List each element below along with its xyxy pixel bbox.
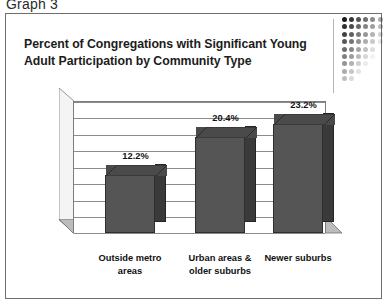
category-label-line: Outside metro — [98, 253, 161, 263]
decoration-dot — [370, 17, 375, 22]
decoration-dot — [363, 39, 368, 44]
category-label-line: Urban areas & — [188, 253, 251, 263]
bar-top-face — [106, 165, 167, 176]
decoration-dot — [363, 17, 368, 22]
decoration-dot — [356, 69, 361, 74]
bar-front-face — [195, 137, 245, 233]
decoration-dot — [349, 24, 354, 29]
chart-frame: Percent of Congregations with Significan… — [5, 13, 382, 299]
decoration-dot — [378, 17, 383, 22]
bar-newer-suburbs — [273, 124, 323, 233]
decoration-dot — [356, 24, 361, 29]
bar-side-face — [323, 113, 334, 222]
decoration-dot — [342, 69, 347, 74]
bar-top-face — [196, 127, 257, 138]
decoration-dot — [342, 61, 347, 66]
decoration-dot — [342, 76, 347, 81]
bar-top-face — [274, 114, 335, 125]
title-divider — [333, 19, 334, 93]
decoration-dot — [370, 54, 375, 59]
category-label-line: areas — [118, 266, 142, 276]
decoration-dot — [363, 54, 368, 59]
decoration-dot — [342, 39, 347, 44]
decoration-dot — [349, 17, 354, 22]
bar-urban-areas-older-suburbs — [195, 137, 245, 233]
chart-title-line-2: Adult Participation by Community Type — [24, 53, 319, 70]
decoration-dot — [342, 54, 347, 59]
fading-dot-grid-decoration — [342, 17, 388, 93]
data-label-newer-suburbs: 23.2% — [269, 100, 338, 110]
decoration-dot — [349, 76, 354, 81]
decoration-dot — [378, 24, 383, 29]
bar-front-face — [105, 175, 155, 233]
decoration-dot — [378, 39, 383, 44]
decoration-dot — [356, 39, 361, 44]
decoration-dot — [363, 32, 368, 37]
decoration-dot — [370, 47, 375, 52]
category-label-line: Newer suburbs — [264, 253, 331, 263]
chart-title: Percent of Congregations with Significan… — [24, 36, 319, 69]
decoration-dot — [370, 39, 375, 44]
decoration-dot — [356, 32, 361, 37]
decoration-dot — [342, 32, 347, 37]
decoration-dot — [349, 39, 354, 44]
bar-outside-metro-areas — [105, 175, 155, 233]
decoration-dot — [370, 24, 375, 29]
decoration-dot — [378, 32, 383, 37]
decoration-dot — [363, 61, 368, 66]
chart-title-line-1: Percent of Congregations with Significan… — [24, 36, 319, 53]
decoration-dot — [370, 32, 375, 37]
decoration-dot — [349, 69, 354, 74]
category-label-line: older suburbs — [189, 266, 251, 276]
bar-side-face — [245, 126, 256, 222]
decoration-dot — [342, 47, 347, 52]
decoration-dot — [342, 17, 347, 22]
decoration-dot — [356, 54, 361, 59]
bar-front-face — [273, 124, 323, 233]
decoration-dot — [363, 24, 368, 29]
data-label-urban-areas-older-suburbs: 20.4% — [191, 113, 260, 123]
decoration-dot — [349, 54, 354, 59]
decoration-dot — [349, 47, 354, 52]
decoration-dot — [363, 47, 368, 52]
figure-caption: Graph 3 — [6, 0, 58, 12]
gridline — [74, 233, 325, 234]
decoration-dot — [356, 17, 361, 22]
category-label-newer-suburbs: Newer suburbs — [251, 252, 345, 265]
bar-chart: 12.2% 20.4% 23.2% Outside metro areas Ur… — [59, 88, 344, 258]
decoration-dot — [349, 32, 354, 37]
decoration-dot — [342, 24, 347, 29]
decoration-dot — [349, 61, 354, 66]
decoration-dot — [356, 61, 361, 66]
chart-left-wall — [59, 88, 74, 234]
category-label-outside-metro-areas: Outside metro areas — [83, 252, 177, 277]
data-label-outside-metro-areas: 12.2% — [101, 151, 170, 161]
decoration-dot — [356, 47, 361, 52]
